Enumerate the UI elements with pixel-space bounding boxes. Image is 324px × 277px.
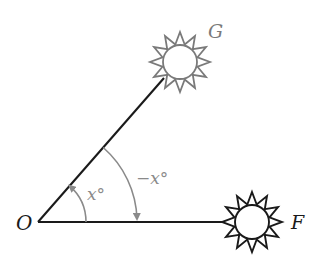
angle-label-negative: −x° (136, 168, 168, 188)
sun-f-icon (222, 192, 282, 252)
object-label-f: F (290, 211, 305, 233)
object-label-g: G (208, 20, 223, 42)
angle-arc-negative (103, 148, 137, 220)
angle-label-positive: x° (87, 184, 105, 204)
vertex-label-o: O (16, 211, 32, 235)
angle-arc-positive (70, 186, 86, 222)
angle-diagram: O G F x° −x° (0, 0, 324, 277)
